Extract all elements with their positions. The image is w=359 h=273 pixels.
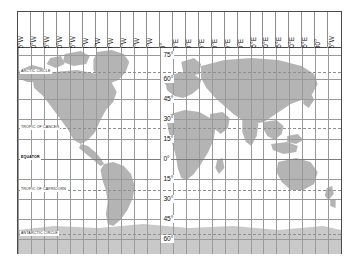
lat-label-60s: 60°	[161, 235, 174, 243]
parallel-75n	[18, 55, 341, 56]
map-frame: 165°W150°W135°W120°W105°W90°W75°W60°W45°…	[17, 11, 342, 254]
longitude-tick: 75°E	[225, 12, 238, 48]
longitude-tick: 30°E	[186, 12, 199, 48]
longitude-axis: 165°W150°W135°W120°W105°W90°W75°W60°W45°…	[18, 12, 341, 48]
parallel-45n	[18, 99, 341, 100]
parallel-30s	[18, 199, 341, 200]
antarctic-circle-line	[18, 234, 341, 235]
parallel-30n	[18, 119, 341, 120]
equator-label: EQUATOR	[20, 155, 41, 160]
lat-label-30s: 30°	[161, 195, 174, 203]
lat-label-60n: 60°	[161, 75, 174, 83]
tropic-of-capricorn-label: TROPIC OF CAPRICORN	[20, 187, 67, 192]
lat-label-45s: 45°	[161, 215, 174, 223]
longitude-tick: 60°E	[212, 12, 225, 48]
longitude-tick: 180°	[315, 12, 328, 48]
lat-label-0: 0°	[161, 155, 170, 163]
longitude-tick: 45°E	[199, 12, 212, 48]
tropic-of-cancer-label: TROPIC OF CANCER	[20, 125, 60, 130]
lat-label-45n: 45°	[161, 95, 174, 103]
longitude-tick: 135°W	[44, 12, 57, 48]
parallel-equator	[18, 159, 341, 160]
world-map-figure: 165°W150°W135°W120°W105°W90°W75°W60°W45°…	[0, 0, 359, 273]
parallel-60s	[18, 239, 341, 240]
longitude-tick: 15°E	[173, 12, 186, 48]
longitude-tick: 90°E	[238, 12, 251, 48]
antarctic-circle-label: ANTARCTIC CIRCLE	[20, 231, 59, 236]
parallel-15s	[18, 179, 341, 180]
longitude-tick: 105°W	[70, 12, 83, 48]
lat-label-15n: 15°	[161, 135, 174, 143]
longitude-tick: 165°W	[328, 12, 341, 48]
lat-label-75n: 75°	[161, 51, 174, 59]
lat-label-15s: 15°	[161, 175, 174, 183]
parallel-15n	[18, 139, 341, 140]
map-plot-area: 75° 60° 45° 30° 15° 0° 15° 30° 45° 60° A…	[18, 48, 341, 254]
longitude-tick: 120°W	[57, 12, 70, 48]
longitude-tick: 165°W	[18, 12, 31, 48]
arctic-circle-label: ARCTIC CIRCLE	[20, 69, 52, 74]
parallel-45s	[18, 219, 341, 220]
lat-label-30n: 30°	[161, 115, 174, 123]
parallel-60n	[18, 79, 341, 80]
arctic-circle-line	[18, 72, 341, 73]
tropic-of-cancer-line	[18, 128, 341, 129]
longitude-tick: 150°W	[31, 12, 44, 48]
